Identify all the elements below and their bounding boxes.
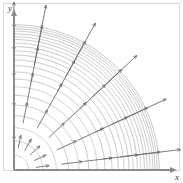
level-curve — [14, 116, 68, 170]
gradient-vector — [25, 139, 31, 150]
gradient-vector — [37, 110, 47, 128]
vector-shaft — [25, 139, 31, 150]
level-curve — [14, 60, 124, 170]
gradient-vector — [23, 102, 28, 123]
level-curve — [14, 95, 89, 170]
level-curve — [14, 155, 29, 170]
level-curve — [14, 72, 112, 170]
vector-shaft — [23, 102, 27, 123]
gradient-field-figure: y x — [0, 0, 183, 183]
vector-shaft — [34, 155, 46, 160]
level-curve — [14, 47, 137, 170]
level-curve — [14, 87, 97, 170]
level-curve — [14, 43, 141, 170]
vector-shaft — [62, 162, 83, 165]
vector-field-plot: y x — [0, 0, 183, 183]
gradient-vector — [27, 73, 33, 101]
vector-shaft — [125, 99, 166, 118]
vector-shaft — [37, 110, 47, 128]
gradient-vector — [125, 99, 166, 118]
level-curve — [14, 128, 56, 170]
level-curve — [14, 105, 79, 170]
level-curve — [14, 40, 144, 170]
level-curve — [14, 55, 129, 170]
gradient-vector — [62, 161, 83, 164]
level-curve — [14, 79, 105, 170]
gradient-vector — [34, 155, 46, 160]
x-axis-label: x — [174, 172, 179, 182]
y-axis-label: y — [7, 3, 12, 13]
level-curve-group — [14, 25, 159, 170]
